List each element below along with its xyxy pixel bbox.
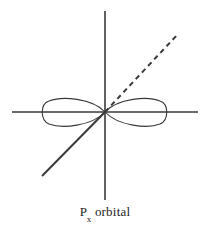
caption-word: orbital xyxy=(95,204,130,219)
figure-caption: Pxorbital xyxy=(0,204,210,222)
orbital-figure: Pxorbital xyxy=(0,0,210,230)
orbital-diagram xyxy=(0,0,210,230)
caption-subscript: x xyxy=(87,214,92,224)
